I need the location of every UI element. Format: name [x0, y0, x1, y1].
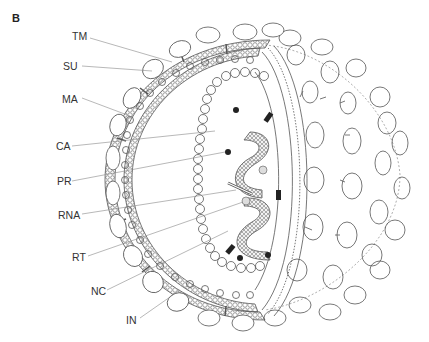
- rna-nucleocapsid: [228, 132, 270, 260]
- enzymes: [225, 107, 281, 261]
- cut-edge: [255, 46, 307, 316]
- label-nc: NC: [91, 285, 106, 297]
- label-pr: PR: [57, 175, 72, 187]
- virion-diagram: [0, 0, 429, 342]
- label-rna: RNA: [58, 209, 80, 221]
- label-in: IN: [126, 314, 137, 326]
- lipid-bilayer: [105, 40, 270, 320]
- label-rt: RT: [72, 251, 86, 263]
- label-ca: CA: [56, 140, 71, 152]
- label-su: SU: [63, 60, 78, 72]
- label-ma: MA: [62, 93, 78, 105]
- back-envelope: [265, 45, 400, 310]
- label-tm: TM: [72, 30, 87, 42]
